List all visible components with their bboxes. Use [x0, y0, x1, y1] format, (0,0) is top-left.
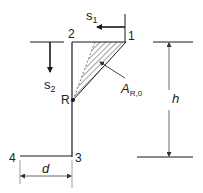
label-point-R: R: [61, 93, 70, 107]
diagram-canvas: 1 2 3 4 R s1 s2 AR,0 h d: [0, 0, 203, 193]
label-area-A-R0: AR,0: [120, 81, 143, 98]
point-R-dot: [71, 98, 75, 102]
label-point-2: 2: [68, 27, 75, 41]
label-dimension-h: h: [172, 91, 179, 106]
label-s1: s1: [86, 8, 98, 25]
label-dimension-d: d: [42, 161, 50, 176]
area-leader-line: [100, 62, 125, 78]
label-point-4: 4: [9, 151, 16, 165]
label-point-1: 1: [128, 29, 135, 43]
label-point-3: 3: [75, 151, 82, 165]
label-s2: s2: [44, 77, 56, 94]
